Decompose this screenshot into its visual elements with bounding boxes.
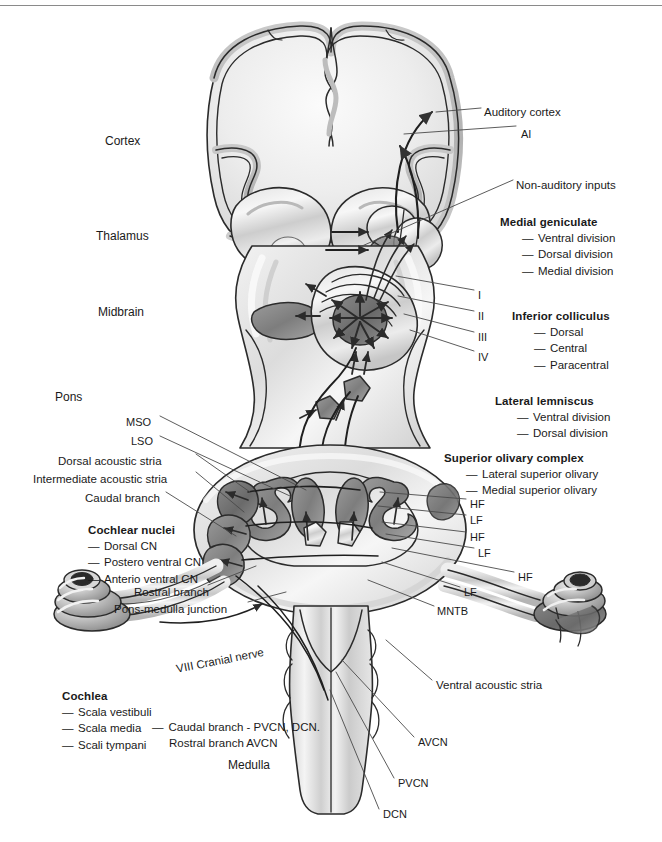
label-hf-1: HF bbox=[470, 497, 485, 512]
label-pons-medulla-junction: Pons-medulla junction bbox=[114, 602, 227, 617]
list-item-label: Scali tympani bbox=[78, 739, 146, 751]
label-auditory-cortex: Auditory cortex bbox=[484, 105, 561, 120]
note-line-1-label: Caudal branch - PVCN, DCN. bbox=[169, 721, 320, 733]
bullet-dash-icon: — bbox=[466, 482, 478, 498]
block-list-cochlea: —Scala vestibuli—Scala media—Scali tympa… bbox=[62, 704, 152, 753]
bullet-dash-icon: — bbox=[88, 554, 100, 570]
label-dcn: DCN bbox=[383, 807, 407, 822]
bullet-dash-icon: — bbox=[522, 263, 534, 279]
note-line-1: —Caudal branch - PVCN, DCN. bbox=[152, 719, 320, 735]
list-item-label: Ventral division bbox=[538, 232, 615, 244]
note-line-2: Rostral branch AVCN bbox=[152, 735, 320, 751]
level-label-pons: Pons bbox=[55, 390, 82, 406]
label-hf-3: HF bbox=[518, 570, 533, 585]
list-item: —Lateral superior olivary bbox=[466, 466, 598, 482]
bullet-dash-icon: — bbox=[62, 704, 74, 720]
list-item: —Central bbox=[534, 340, 610, 356]
label-lso: LSO bbox=[131, 434, 153, 449]
level-label-cortex: Cortex bbox=[105, 134, 140, 150]
level-label-midbrain: Midbrain bbox=[98, 305, 144, 321]
list-item-label: Medial division bbox=[538, 265, 613, 277]
block-list-superior-olivary-complex: —Lateral superior olivary—Medial superio… bbox=[466, 466, 598, 499]
label-pvcn: PVCN bbox=[398, 776, 429, 791]
list-item-label: Medial superior olivary bbox=[482, 484, 597, 496]
block-cochlea: Cochlea—Scala vestibuli—Scala media—Scal… bbox=[62, 690, 152, 753]
list-item: —Scala vestibuli bbox=[62, 704, 152, 720]
block-list-lateral-lemniscus: —Ventral division—Dorsal division bbox=[517, 409, 610, 442]
list-item: —Ventral division bbox=[517, 409, 610, 425]
note-branch-note: —Caudal branch - PVCN, DCN.Rostral branc… bbox=[152, 719, 320, 752]
list-item: —Ventral division bbox=[522, 230, 615, 246]
list-item-label: Paracentral bbox=[550, 359, 609, 371]
bullet-dash-icon: — bbox=[517, 409, 529, 425]
bullet-dash-icon: — bbox=[522, 230, 534, 246]
label-lf-1: LF bbox=[470, 513, 483, 528]
list-item-label: Postero ventral CN bbox=[104, 556, 201, 568]
list-item: —Scali tympani bbox=[62, 737, 152, 753]
list-item-label: Anterio ventral CN bbox=[104, 573, 198, 585]
list-item-label: Ventral division bbox=[533, 411, 610, 423]
label-caudal-branch: Caudal branch bbox=[85, 491, 160, 506]
list-item-label: Scala media bbox=[78, 722, 141, 734]
label-intermediate-acoustic-stria: Intermediate acoustic stria bbox=[33, 472, 167, 487]
block-heading-superior-olivary-complex: Superior olivary complex bbox=[444, 452, 598, 464]
label-ic-layer-3: III bbox=[478, 330, 487, 345]
block-heading-lateral-lemniscus: Lateral lemniscus bbox=[495, 395, 610, 407]
block-list-inferior-colliculus: —Dorsal—Central—Paracentral bbox=[534, 324, 610, 373]
bullet-dash-icon: — bbox=[88, 538, 100, 554]
block-heading-inferior-colliculus: Inferior colliculus bbox=[512, 310, 610, 322]
block-heading-medial-geniculate: Medial geniculate bbox=[500, 216, 615, 228]
list-item: —Dorsal bbox=[534, 324, 610, 340]
level-label-medulla: Medulla bbox=[228, 758, 270, 774]
label-ic-layer-2: II bbox=[478, 309, 484, 324]
bullet-dash-icon: — bbox=[534, 357, 546, 373]
list-item-label: Dorsal division bbox=[538, 248, 613, 260]
list-item: —Paracentral bbox=[534, 357, 610, 373]
list-item-label: Scala vestibuli bbox=[78, 706, 152, 718]
list-item: —Anterio ventral CN bbox=[88, 571, 201, 587]
label-ai: AI bbox=[521, 127, 531, 142]
bullet-dash-icon: — bbox=[88, 571, 100, 587]
figure-page: CortexThalamusMidbrainPonsMedullaAuditor… bbox=[0, 0, 662, 842]
list-item: —Medial superior olivary bbox=[466, 482, 598, 498]
list-item-label: Dorsal bbox=[550, 326, 583, 338]
label-mso: MSO bbox=[126, 415, 151, 430]
label-ic-layer-4: IV bbox=[478, 350, 488, 365]
block-list-cochlear-nuclei: —Dorsal CN—Postero ventral CN—Anterio ve… bbox=[88, 538, 201, 587]
block-heading-cochlea: Cochlea bbox=[62, 690, 152, 702]
list-item: —Medial division bbox=[522, 263, 615, 279]
list-item: —Dorsal division bbox=[522, 246, 615, 262]
label-ventral-acoustic-stria: Ventral acoustic stria bbox=[436, 678, 542, 693]
block-list-medial-geniculate: —Ventral division—Dorsal division—Medial… bbox=[522, 230, 615, 279]
list-item-label: Lateral superior olivary bbox=[482, 468, 598, 480]
block-superior-olivary-complex: Superior olivary complex—Lateral superio… bbox=[444, 452, 598, 499]
label-avcn: AVCN bbox=[418, 735, 448, 750]
bullet-dash-icon: — bbox=[534, 340, 546, 356]
bullet-dash-icon: — bbox=[517, 425, 529, 441]
block-inferior-colliculus: Inferior colliculus—Dorsal—Central—Parac… bbox=[512, 310, 610, 373]
list-item-label: Dorsal division bbox=[533, 427, 608, 439]
block-lateral-lemniscus: Lateral lemniscus—Ventral division—Dorsa… bbox=[495, 395, 610, 442]
label-rostral-branch: Rostral branch bbox=[134, 585, 209, 600]
bullet-dash-icon: — bbox=[62, 720, 74, 736]
list-item: —Dorsal CN bbox=[88, 538, 201, 554]
label-ic-layer-1: I bbox=[478, 288, 481, 303]
list-item-label: Dorsal CN bbox=[104, 540, 157, 552]
block-medial-geniculate: Medial geniculate—Ventral division—Dorsa… bbox=[500, 216, 615, 279]
label-hf-2: HF bbox=[470, 530, 485, 545]
bullet-dash-icon: — bbox=[522, 246, 534, 262]
bullet-dash-icon: — bbox=[152, 721, 164, 733]
list-item-label: Central bbox=[550, 342, 587, 354]
list-item: —Postero ventral CN bbox=[88, 554, 201, 570]
bullet-dash-icon: — bbox=[466, 466, 478, 482]
block-heading-cochlear-nuclei: Cochlear nuclei bbox=[88, 524, 201, 536]
bullet-dash-icon: — bbox=[62, 737, 74, 753]
label-mntb: MNTB bbox=[437, 604, 468, 619]
label-lf-3: LF bbox=[464, 585, 477, 600]
list-item: —Scala media bbox=[62, 720, 152, 736]
label-non-auditory-inputs: Non-auditory inputs bbox=[516, 178, 616, 193]
block-cochlear-nuclei: Cochlear nuclei—Dorsal CN—Postero ventra… bbox=[88, 524, 201, 587]
level-label-thalamus: Thalamus bbox=[96, 229, 149, 245]
label-lf-2: LF bbox=[478, 546, 491, 561]
label-dorsal-acoustic-stria: Dorsal acoustic stria bbox=[58, 454, 162, 469]
